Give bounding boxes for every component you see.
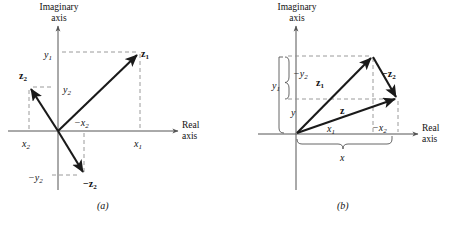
panel-a-imaginary-axis-label: Imaginary axis xyxy=(28,2,90,24)
panel-a-label-minus-z2: −z2 xyxy=(83,174,97,191)
figure-canvas xyxy=(0,0,457,227)
panel-b-imaginary-axis-label: Imaginary axis xyxy=(266,2,328,24)
panel-b-caption: (b) xyxy=(337,201,349,211)
panel-a-tick-x2: x2 xyxy=(22,134,30,151)
panel-a-label-z2: z2 xyxy=(19,66,27,83)
panel-b-label-minus-z2: −z2 xyxy=(382,64,396,81)
panel-b-tick-x: x xyxy=(340,148,344,164)
panel-b-real-axis-label: Real axis xyxy=(422,123,457,145)
panel-b-tick-x1: x1 xyxy=(327,119,335,136)
panel-b-tick-y: y xyxy=(291,103,295,119)
vector-z2 xyxy=(31,89,58,131)
panel-b-axes xyxy=(258,26,418,190)
panel-a-tick-minus-y2: −y2 xyxy=(28,168,43,185)
panel-a-axes xyxy=(8,26,178,190)
panel-a-label-z1: z1 xyxy=(141,44,149,61)
panel-a-tick-minus-x2: −x2 xyxy=(74,113,89,130)
vector-minus-z2 xyxy=(58,131,83,172)
panel-a-caption: (a) xyxy=(97,201,109,211)
panel-b-tick-minus-x2: −x2 xyxy=(372,118,387,135)
panel-a-tick-y1: y1 xyxy=(44,45,52,62)
panel-a-tick-y2: y2 xyxy=(63,80,71,97)
panel-b-tick-y1: y1 xyxy=(272,76,280,93)
panel-b-tick-minus-y2: −y2 xyxy=(293,64,308,81)
complex-plane-figure: Imaginary axis Real axis z1 z2 −z2 y1 y2… xyxy=(0,0,457,227)
panel-b-label-z1: z1 xyxy=(316,73,324,90)
panel-b-label-z: z xyxy=(340,101,344,117)
panel-a-tick-x1: x1 xyxy=(134,134,142,151)
panel-a-real-axis-label: Real axis xyxy=(182,120,222,142)
